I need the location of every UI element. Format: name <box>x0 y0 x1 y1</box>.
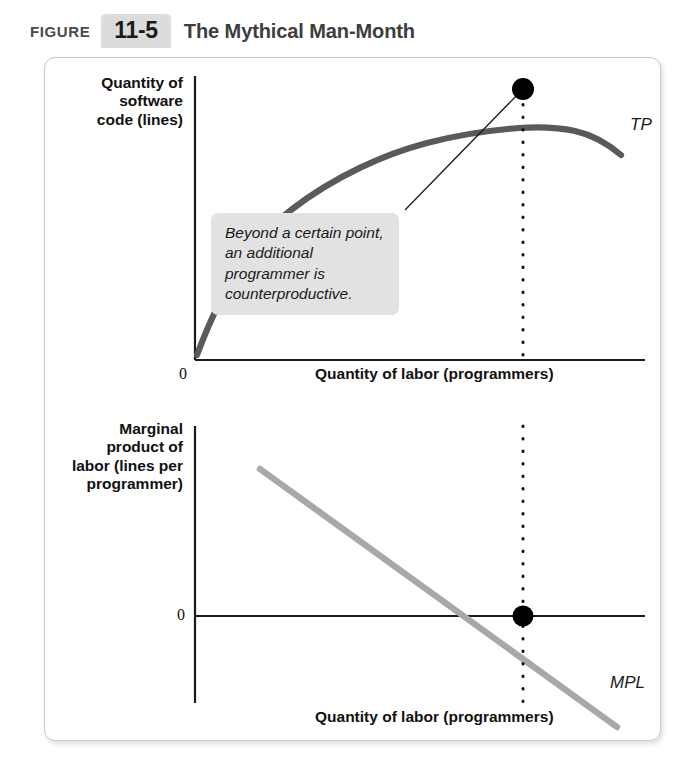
figure-number-chip: 11-5 <box>101 14 171 48</box>
top-panel-origin-label: 0 <box>179 365 187 383</box>
panel-marginal-product <box>195 426 645 727</box>
tp-curve-label: TP <box>630 115 652 135</box>
callout-leader-line <box>405 91 521 210</box>
figure-word-label: Figure <box>30 24 101 39</box>
top-panel-x-axis-label: Quantity of labor (programmers) <box>315 365 554 383</box>
figure-header: Figure 11-5 The Mythical Man-Month <box>30 14 415 48</box>
callout-box: Beyond a certain point, an additional pr… <box>211 213 399 315</box>
figure-plot-area <box>45 58 661 741</box>
mpl-curve <box>260 469 617 727</box>
tp-peak-marker <box>512 78 534 100</box>
figure-card: Quantity of software code (lines) 0 TP Q… <box>44 57 661 741</box>
top-panel-y-axis-label: Quantity of software code (lines) <box>55 74 183 129</box>
bottom-panel-x-axis-label: Quantity of labor (programmers) <box>315 708 554 726</box>
mpl-zero-crossing-marker <box>513 606 534 627</box>
figure-title: The Mythical Man-Month <box>171 21 415 41</box>
bottom-panel-y-axis-label: Marginal product of labor (lines per pro… <box>45 420 183 493</box>
bottom-panel-origin-label: 0 <box>177 606 185 624</box>
mpl-curve-label: MPL <box>610 673 645 693</box>
